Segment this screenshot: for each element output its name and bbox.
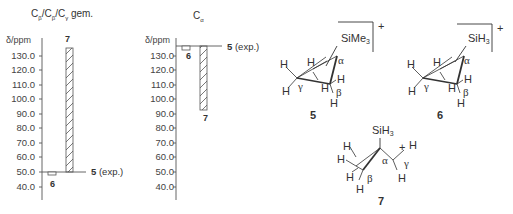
svg-text:H: H bbox=[408, 85, 416, 97]
structure-7 bbox=[346, 138, 404, 180]
svg-text:H: H bbox=[337, 73, 345, 85]
structure-5-label: 5 bbox=[310, 109, 316, 121]
chart1-axes bbox=[39, 38, 86, 200]
svg-text:H: H bbox=[337, 153, 345, 165]
svg-text:H: H bbox=[409, 139, 417, 151]
svg-text:H: H bbox=[343, 140, 351, 152]
svg-text:H: H bbox=[448, 82, 456, 94]
svg-text:H: H bbox=[307, 56, 315, 68]
structure-5-charge: + bbox=[378, 20, 384, 32]
svg-text:H: H bbox=[407, 58, 415, 70]
svg-text:H: H bbox=[282, 85, 290, 97]
chart1-bar-7 bbox=[66, 48, 73, 172]
chart2-bar-7 bbox=[200, 46, 207, 110]
svg-text:γ: γ bbox=[423, 80, 429, 92]
chart2-bar-6 bbox=[182, 46, 190, 50]
svg-text:H: H bbox=[356, 183, 364, 195]
svg-text:β: β bbox=[336, 86, 342, 98]
svg-text:H: H bbox=[464, 73, 472, 85]
figure-graphics: SiMe3 + H H H H H H α γ β 5 SiH3 + H H H… bbox=[0, 0, 513, 214]
svg-text:H: H bbox=[346, 171, 354, 183]
chart1-bar-6 bbox=[48, 172, 56, 175]
structure-5-substituent: SiMe3 bbox=[341, 32, 370, 45]
svg-text:H: H bbox=[433, 56, 441, 68]
structure-6-charge: + bbox=[497, 22, 503, 34]
svg-text:H: H bbox=[321, 82, 329, 94]
structure-6-substituent: SiH3 bbox=[468, 32, 490, 45]
structure-7-label: 7 bbox=[378, 195, 384, 207]
svg-text:H: H bbox=[330, 97, 338, 109]
structure-7-substituent: SiH3 bbox=[372, 124, 394, 137]
svg-text:H: H bbox=[398, 172, 406, 184]
chart2-axes bbox=[173, 38, 222, 200]
svg-text:H: H bbox=[280, 58, 288, 70]
svg-text:α: α bbox=[464, 54, 470, 66]
svg-text:γ: γ bbox=[403, 157, 409, 169]
svg-text:α: α bbox=[338, 54, 344, 66]
structure-7-charge: + bbox=[399, 141, 405, 153]
svg-text:γ: γ bbox=[297, 80, 303, 92]
structure-6-label: 6 bbox=[437, 109, 443, 121]
svg-text:H: H bbox=[457, 97, 465, 109]
svg-text:β: β bbox=[463, 86, 469, 98]
svg-text:α: α bbox=[382, 154, 388, 166]
svg-text:β: β bbox=[367, 172, 373, 184]
